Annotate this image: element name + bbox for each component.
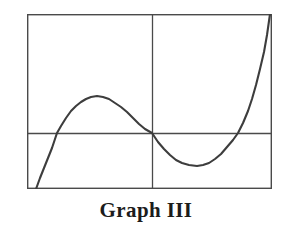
graph-figure: Graph III <box>0 0 292 230</box>
figure-background <box>0 0 292 230</box>
graph-plot-area <box>0 0 292 230</box>
graph-caption: Graph III <box>0 198 292 223</box>
